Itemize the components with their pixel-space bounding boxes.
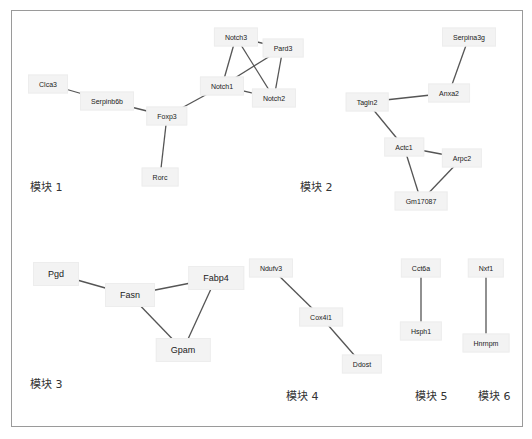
gene-node-ddost[interactable]: Ddost	[342, 355, 382, 374]
gene-node-gm17087[interactable]: Gm17087	[395, 192, 448, 211]
edge-layer	[0, 0, 532, 439]
gene-node-nxf1[interactable]: Nxf1	[468, 259, 504, 278]
module-label-5: 模块 5	[415, 387, 448, 403]
gene-node-notch3[interactable]: Notch3	[214, 28, 258, 47]
gene-node-pard3[interactable]: Pard3	[263, 39, 304, 58]
module-label-2: 模块 2	[300, 178, 333, 194]
gene-node-notch1[interactable]: Notch1	[200, 77, 244, 96]
gene-node-rorc[interactable]: Rorc	[142, 168, 179, 187]
gene-node-foxp3[interactable]: Foxp3	[146, 107, 187, 126]
gene-node-cox4i1[interactable]: Cox4i1	[299, 308, 343, 327]
module-label-4: 模块 4	[286, 387, 319, 403]
gene-node-hsph1[interactable]: Hsph1	[400, 322, 442, 341]
gene-node-gpam[interactable]: Gpam	[156, 338, 211, 362]
gene-node-hnrnpm[interactable]: Hnrnpm	[463, 334, 510, 353]
gene-node-actc1[interactable]: Actc1	[384, 138, 424, 157]
gene-node-tagln2[interactable]: Tagln2	[346, 93, 389, 112]
gene-node-notch2[interactable]: Notch2	[252, 89, 296, 108]
module-label-1: 模块 1	[30, 178, 63, 194]
gene-node-arpc2[interactable]: Arpc2	[442, 149, 482, 168]
module-label-6: 模块 6	[478, 387, 511, 403]
gene-node-fasn[interactable]: Fasn	[105, 283, 155, 307]
gene-node-pgd[interactable]: Pgd	[33, 262, 79, 286]
gene-node-anxa2[interactable]: Anxa2	[428, 84, 470, 103]
gene-node-serpina3g[interactable]: Serpina3g	[442, 28, 496, 47]
gene-node-clca3[interactable]: Clca3	[28, 75, 68, 94]
gene-node-fabp4[interactable]: Fabp4	[188, 266, 244, 290]
gene-node-ndufv3[interactable]: Ndufv3	[249, 259, 293, 278]
module-label-3: 模块 3	[30, 375, 63, 391]
gene-node-serpinb6b[interactable]: Serpinb6b	[80, 92, 134, 111]
gene-node-cct6a[interactable]: Cct6a	[401, 259, 441, 278]
